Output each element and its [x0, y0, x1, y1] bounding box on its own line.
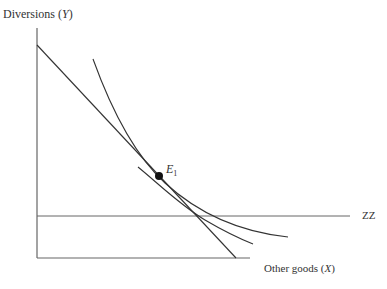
x-axis-label-text: Other goods: [264, 262, 318, 274]
diagram-canvas: [0, 0, 387, 289]
budget-line: [37, 45, 236, 258]
y-axis-label-text: Diversions: [3, 7, 55, 21]
point-label: E1: [166, 162, 177, 178]
equilibrium-point: [155, 172, 163, 180]
zz-label: ZZ: [362, 209, 375, 221]
x-axis-var: X: [325, 262, 332, 274]
y-axis-var: Y: [62, 7, 69, 21]
y-axis-label: Diversions (Y): [3, 7, 73, 22]
point-label-subscript: 1: [173, 169, 177, 178]
lower-indifference-curve: [138, 167, 253, 244]
x-axis-label: Other goods (X): [264, 262, 335, 274]
